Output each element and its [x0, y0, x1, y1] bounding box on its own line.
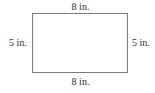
left-side-label: 5 in. — [9, 38, 27, 48]
top-side-label: 8 in. — [0, 2, 155, 12]
right-side-label: 5 in. — [132, 38, 150, 48]
rectangle-shape — [32, 13, 128, 73]
bottom-side-label: 8 in. — [0, 77, 155, 87]
